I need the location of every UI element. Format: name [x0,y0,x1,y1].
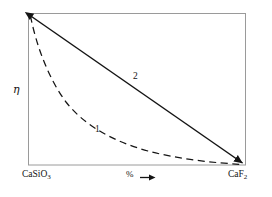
x-axis-left-endmember-label: CaSiO3 [22,170,51,180]
x-left-label-subscript: 3 [47,173,51,181]
x-right-label-text: CaF [228,169,244,179]
x-left-label-text: CaSiO [22,169,47,179]
curve-2-label: 2 [133,72,138,82]
x-axis-percent-label: % [126,170,134,179]
viscosity-composition-diagram: η CaSiO3 % CaF2 1 2 [0,0,272,197]
curve-2-solid [32,17,243,164]
plot-area [0,0,272,197]
x-right-label-subscript: 2 [244,173,248,181]
y-axis-label: η [13,84,20,95]
curve-1-label: 1 [95,125,100,135]
right-arrow-icon [140,174,156,181]
x-axis-right-endmember-label: CaF2 [228,170,247,180]
